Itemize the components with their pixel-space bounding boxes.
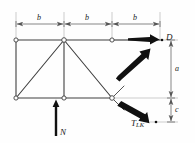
joint-bottom-middle <box>62 96 66 100</box>
joint-top-right <box>110 38 114 42</box>
point-markers <box>155 39 164 124</box>
truss-diagram-canvas <box>0 0 195 143</box>
force-label-N: N <box>60 128 66 137</box>
joint-bottom-left <box>14 96 18 100</box>
truss-diagram: b b b a c N D TLK <box>0 0 195 143</box>
joint-bottom-right <box>110 96 115 101</box>
joint-top-middle <box>62 38 67 43</box>
dimension-label-a: a <box>175 65 179 73</box>
joint-top-left <box>14 38 18 42</box>
vertical-dimension-lines <box>167 40 175 122</box>
force-label-TLK-subscript: LK <box>136 121 144 128</box>
dimension-label-b-1: b <box>37 14 41 22</box>
dimension-extension-lines <box>16 12 178 122</box>
point-marker-T <box>155 121 158 124</box>
force-label-D: D <box>166 33 173 42</box>
force-arrow-N <box>53 100 60 137</box>
dimension-label-b-2: b <box>85 14 89 22</box>
dimension-label-c: c <box>175 106 179 114</box>
truss-members <box>16 40 160 98</box>
point-marker-D <box>161 39 164 42</box>
member-diagonal-1 <box>16 40 64 98</box>
force-arrow-diagonal <box>116 49 151 82</box>
member-diagonal-2 <box>64 40 112 98</box>
force-label-TLK: TLK <box>131 119 144 129</box>
dimension-label-b-3: b <box>133 14 137 22</box>
force-arrow-D <box>128 34 160 44</box>
